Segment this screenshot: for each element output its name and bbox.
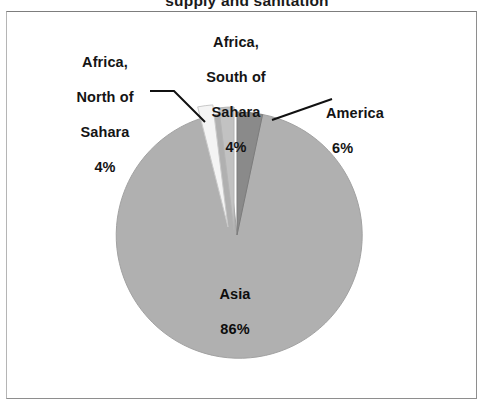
chart-screenshot: supply and sanitation Africa, North of S…: [0, 0, 494, 412]
label-percent: 4%: [48, 159, 162, 177]
label-line-1: America: [326, 105, 434, 123]
slice-label-africa-south-of-sahara: Africa, South of Sahara 4%: [180, 16, 292, 174]
label-line-1: Africa,: [48, 54, 162, 72]
label-percent: 4%: [180, 139, 292, 157]
label-line-2: South of: [180, 69, 292, 87]
slice-label-america: America 6%: [326, 87, 434, 175]
slice-label-asia: Asia 86%: [178, 268, 292, 356]
label-line-3: Sahara: [48, 124, 162, 142]
label-percent: 86%: [178, 321, 292, 339]
label-line-1: Asia: [178, 286, 292, 304]
label-line-1: Africa,: [180, 34, 292, 52]
slice-label-africa-north-of-sahara: Africa, North of Sahara 4%: [48, 36, 162, 194]
label-line-3: Sahara: [180, 104, 292, 122]
label-line-2: North of: [48, 89, 162, 107]
label-percent: 6%: [326, 140, 434, 158]
